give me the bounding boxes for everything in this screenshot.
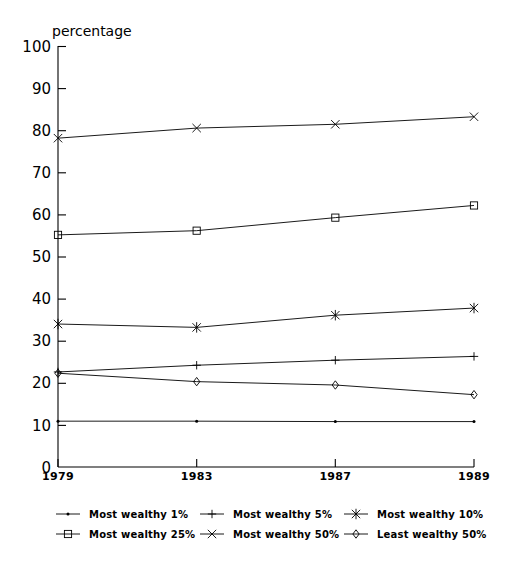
y-tick-label-50: 50 [32,248,51,266]
chart-series [54,202,477,239]
series-line [58,205,474,234]
y-tick-label-10: 10 [32,417,51,435]
legend-item[interactable]: Least wealthy 50% [344,529,487,540]
x-tick-label-1983: 1983 [181,470,213,483]
x-axis-ticks: 1979 1983 1987 1989 [42,459,490,483]
y-axis-ticks: 100 90 80 70 60 50 40 30 20 10 0 [22,38,66,477]
series-layer [54,113,478,424]
y-tick-label-60: 60 [32,206,51,224]
legend-label: Most wealthy 1% [89,509,188,520]
chart-container: percentage 100 90 80 70 60 50 40 30 20 [0,0,507,573]
chart-series [54,113,478,143]
chart-series [57,420,476,423]
legend-label: Most wealthy 5% [233,509,332,520]
data-point [57,420,60,423]
chart-series [54,352,478,376]
x-tick-label-1989: 1989 [458,470,490,483]
y-tick-label-80: 80 [32,122,51,140]
legend-item[interactable]: Most wealthy 50% [200,529,339,540]
legend-item[interactable]: Most wealthy 1% [56,509,188,520]
y-tick-label-30: 30 [32,332,51,350]
data-point [473,420,476,423]
dot-marker-icon [67,513,70,516]
x-tick-label-1979: 1979 [42,470,74,483]
legend-marker [67,513,70,516]
y-axis-title: percentage [52,23,132,39]
y-tick-label-20: 20 [32,374,51,392]
legend-item[interactable]: Most wealthy 25% [56,529,195,540]
dot-marker-icon [57,420,60,423]
chart-legend: Most wealthy 1%Most wealthy 5%Most wealt… [56,509,487,540]
legend-item[interactable]: Most wealthy 5% [200,509,332,520]
y-tick-label-90: 90 [32,80,51,98]
data-point [331,356,339,364]
data-point [195,420,198,423]
data-point [334,420,337,423]
dot-marker-icon [195,420,198,423]
legend-label: Least wealthy 50% [377,529,487,540]
y-tick-label-40: 40 [32,290,51,308]
chart-series [54,303,478,333]
legend-label: Most wealthy 50% [233,529,339,540]
legend-label: Most wealthy 25% [89,529,195,540]
legend-marker [208,510,216,518]
y-tick-label-100: 100 [22,38,51,56]
data-point [192,361,200,369]
series-line [58,373,474,394]
legend-item[interactable]: Most wealthy 10% [344,509,483,520]
y-tick-label-70: 70 [32,164,51,182]
series-line [58,117,474,138]
data-point [470,352,478,360]
line-chart-svg: percentage 100 90 80 70 60 50 40 30 20 [0,0,507,573]
series-line [58,356,474,372]
x-tick-label-1987: 1987 [319,470,351,483]
dot-marker-icon [334,420,337,423]
series-line [58,308,474,327]
dot-marker-icon [473,420,476,423]
chart-series [55,369,477,399]
legend-label: Most wealthy 10% [377,509,483,520]
